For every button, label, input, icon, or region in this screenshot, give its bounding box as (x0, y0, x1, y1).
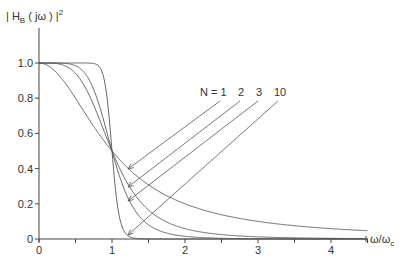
x-tick-label: 2 (182, 244, 188, 256)
arrow-line (128, 101, 258, 201)
y-tick-label: 0.8 (18, 92, 33, 104)
y-tick-label: 0.6 (18, 127, 33, 139)
annotation-label: N = 1 (200, 86, 227, 98)
annotation-arrows (128, 101, 278, 235)
y-tick-label: 1.0 (18, 57, 33, 69)
arrow-line (128, 101, 240, 187)
annotation-label: 2 (238, 86, 244, 98)
butterworth-chart: 0123400.20.40.60.81.0N = 12310 | HB ( jω… (0, 0, 407, 267)
x-tick-label: 0 (36, 244, 42, 256)
arrow-line (128, 101, 278, 235)
x-tick-label: 3 (255, 244, 261, 256)
x-axis-label: ω/ωc (370, 233, 394, 248)
y-tick-label: 0.4 (18, 163, 33, 175)
x-tick-label: 1 (109, 244, 115, 256)
arrow-line (128, 101, 220, 169)
x-tick-label: 4 (328, 244, 334, 256)
annotation-label: 10 (274, 86, 286, 98)
annotation-label: 3 (256, 86, 262, 98)
axes (35, 28, 368, 243)
y-tick-label: 0 (27, 233, 33, 245)
y-axis-label: | HB ( jω ) |2 (6, 8, 64, 25)
y-tick-label: 0.2 (18, 198, 33, 210)
